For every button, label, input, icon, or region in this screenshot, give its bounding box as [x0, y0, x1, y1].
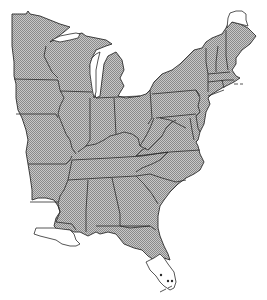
florida-dot-1: [160, 274, 162, 276]
unshaded-southern-florida: [146, 254, 176, 290]
florida-dot-3: [171, 280, 173, 282]
range-map: Eastern United States distribution map: [0, 0, 267, 300]
florida-dot-2: [167, 280, 169, 282]
map-svg: [0, 0, 267, 300]
